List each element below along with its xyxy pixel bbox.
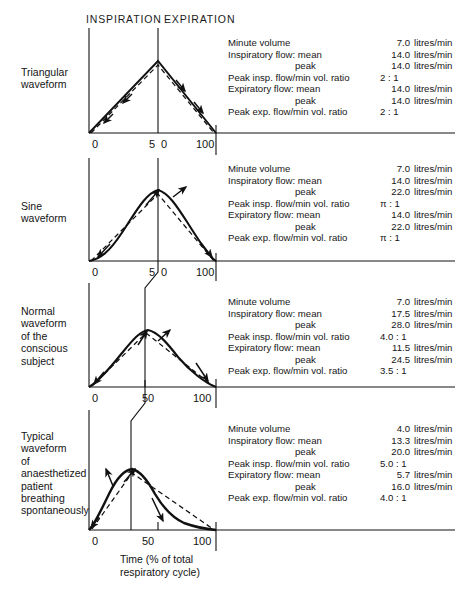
panel-1-waveform-solid [89,61,216,133]
panel-3-to-4-connector [131,387,145,432]
panel-2-flow-arrows [98,187,212,257]
respiratory-waveform-figure: INSPIRATION EXPIRATION Triangular wavefo… [0,0,466,591]
panel-2-to-3-connector [145,261,158,300]
panel-2-waveform-solid [89,190,216,261]
panel-1-axes [89,28,455,155]
panel-2-waveform-dashed [91,194,214,261]
panel-4-flow-arrows [91,469,163,528]
panel-1-waveform-dashed [91,65,214,133]
panel-3-axes [89,283,455,408]
panel-2-axes [89,158,455,281]
waveform-line-art [0,0,466,591]
panel-3-waveform-dashed [92,333,213,386]
panel-3-flow-arrows [94,330,208,384]
panel-4-axes [89,410,455,551]
panel-4-waveform-dashed [92,473,213,529]
